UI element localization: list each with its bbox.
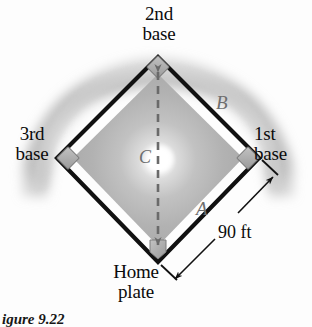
figure-caption: igure 9.22	[2, 311, 65, 327]
label-side-c: C	[139, 148, 151, 167]
label-first-base: 1st base	[254, 124, 312, 164]
baseball-diamond-figure: 2nd base 3rd base 1st base Home plate A …	[0, 0, 312, 327]
label-home-plate: Home plate	[94, 262, 178, 302]
label-side-b: B	[216, 93, 228, 112]
label-dimension-90ft: 90 ft	[218, 222, 252, 243]
label-second-base: 2nd base	[112, 4, 206, 44]
label-third-base: 3rd base	[2, 124, 62, 164]
label-side-a: A	[196, 199, 208, 218]
